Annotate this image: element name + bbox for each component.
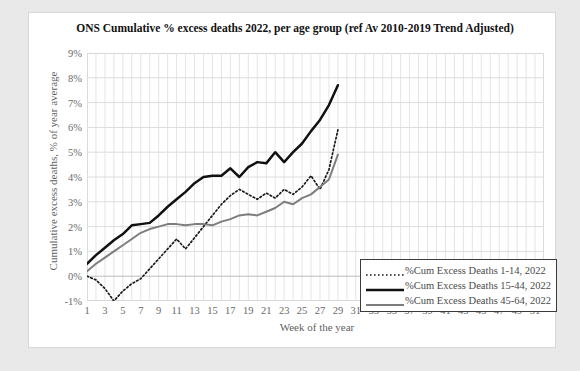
x-tick-label: 11 [172,305,182,316]
x-tick-label: 29 [333,305,344,316]
x-tick-label: 19 [243,305,254,316]
page-root: ONS Cumulative % excess deaths 2022, per… [0,0,580,371]
legend-label: %Cum Excess Deaths 15-44, 2022 [405,280,551,291]
y-tick-label: 8% [68,72,82,83]
x-tick-label: 23 [279,305,290,316]
legend-label: %Cum Excess Deaths 45-64, 2022 [405,295,551,306]
y-tick-label: -1% [65,296,83,307]
legend-item: %Cum Excess Deaths 45-64, 2022 [365,293,551,308]
x-tick-label: 25 [297,305,308,316]
chart-legend: %Cum Excess Deaths 1-14, 2022%Cum Excess… [360,259,557,312]
legend-item: %Cum Excess Deaths 1-14, 2022 [365,263,551,278]
thick-black-line-key [365,281,405,291]
y-tick-label: 1% [68,246,82,257]
y-tick-label: 0% [68,271,82,282]
x-tick-label: 13 [189,305,200,316]
plot-area: 9%8%7%6%5%4%3%2%1%0%-1% 1357911131517192… [87,53,544,301]
y-tick-label: 9% [68,48,82,59]
x-tick-label: 1 [84,305,89,316]
series-line [87,155,338,272]
y-tick-label: 2% [68,221,82,232]
legend-label: %Cum Excess Deaths 1-14, 2022 [405,265,546,276]
chart-card: ONS Cumulative % excess deaths 2022, per… [28,12,556,348]
x-tick-label: 21 [261,305,272,316]
x-axis-title: Week of the year [87,321,547,333]
x-tick-label: 3 [102,305,107,316]
y-tick-label: 5% [68,147,82,158]
x-tick-label: 15 [207,305,218,316]
series-line [87,130,338,301]
gray-line-key [365,296,405,306]
y-tick-label: 3% [68,196,82,207]
x-tick-label: 5 [120,305,125,316]
legend-item: %Cum Excess Deaths 15-44, 2022 [365,278,551,293]
y-axis-title: Cumulative excess deaths, % of year aver… [47,51,59,291]
series-line [87,85,338,264]
x-tick-label: 9 [156,305,161,316]
x-tick-label: 17 [225,305,236,316]
dotted-line-key [365,266,405,276]
x-tick-label: 7 [138,305,143,316]
y-tick-label: 4% [68,172,82,183]
y-tick-label: 6% [68,122,82,133]
x-tick-label: 27 [315,305,326,316]
y-tick-label: 7% [68,97,82,108]
chart-title: ONS Cumulative % excess deaths 2022, per… [75,21,515,36]
